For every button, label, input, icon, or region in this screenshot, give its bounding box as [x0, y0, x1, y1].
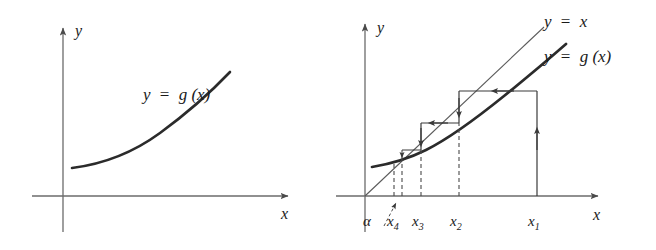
- panel-cobweb-iteration: y x y = x y = g (x) α x4 x3: [328, 0, 656, 250]
- x-axis-label: x: [592, 206, 600, 223]
- curve-label-g: y = g (x): [141, 85, 211, 104]
- curve-label-g: y = g (x): [542, 47, 612, 66]
- panel-graph-of-g: y x y = g (x): [0, 0, 328, 250]
- line-identity: [365, 27, 544, 196]
- tick-label-x4: x4: [386, 213, 399, 232]
- right-panel-svg: y x y = x y = g (x) α x4 x3: [328, 0, 656, 250]
- tick-label-x2: x2: [449, 213, 462, 232]
- x-axis-label: x: [280, 205, 288, 222]
- line-label-identity: y = x: [542, 12, 588, 31]
- tick-label-alpha: α: [363, 213, 372, 229]
- y-axis-label: y: [375, 19, 385, 37]
- tick-label-x3: x3: [411, 213, 424, 232]
- tick-label-x1: x1: [527, 213, 540, 232]
- figure-root: y x y = g (x): [0, 0, 656, 250]
- y-axis-label: y: [73, 22, 83, 40]
- left-panel-svg: y x y = g (x): [0, 0, 328, 250]
